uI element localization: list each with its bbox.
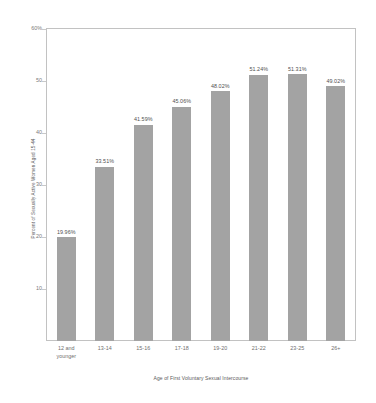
x-axis-category-line: 12 and bbox=[47, 345, 86, 353]
bar-value-label: 51.24% bbox=[249, 66, 268, 72]
x-axis-category-label: 26+ bbox=[317, 345, 356, 353]
bar-group: 51.31% bbox=[278, 29, 317, 341]
bar-value-label: 48.02% bbox=[211, 83, 230, 89]
bars-layer: 19.96%33.51%41.59%45.06%48.02%51.24%51.3… bbox=[47, 29, 355, 341]
x-axis-category-label: 19-20 bbox=[201, 345, 240, 353]
y-axis-tick-label: 20 bbox=[20, 234, 42, 239]
y-axis-tick-label: 30 bbox=[20, 182, 42, 187]
bar-value-label: 41.59% bbox=[134, 116, 153, 122]
x-axis-category-line: 26+ bbox=[317, 345, 356, 353]
bar-group: 51.24% bbox=[240, 29, 279, 341]
x-axis-category-label: 17-18 bbox=[163, 345, 202, 353]
x-axis-category-label: 21-22 bbox=[240, 345, 279, 353]
bar-group: 49.02% bbox=[317, 29, 356, 341]
x-axis-category-label: 15-16 bbox=[124, 345, 163, 353]
x-axis-category-line: 17-18 bbox=[163, 345, 202, 353]
x-axis-category-line: 21-22 bbox=[240, 345, 279, 353]
y-axis-tick-label: 60% bbox=[20, 26, 42, 31]
x-axis-category-line: 23-25 bbox=[278, 345, 317, 353]
bar[interactable] bbox=[95, 167, 114, 341]
bar-group: 48.02% bbox=[201, 29, 240, 341]
y-axis-tick-label: 10 bbox=[20, 286, 42, 291]
x-axis-category-labels: 12 andyounger13-1415-1617-1819-2021-2223… bbox=[47, 345, 355, 371]
y-axis-tick-label: 50 bbox=[20, 78, 42, 83]
x-axis-category-label: 13-14 bbox=[86, 345, 125, 353]
x-axis-category-line: 13-14 bbox=[86, 345, 125, 353]
x-axis-title: Age of First Voluntary Sexual Intercours… bbox=[46, 375, 356, 381]
y-axis-ticks: 60%5040302010 bbox=[12, 0, 42, 403]
x-axis-category-line: 15-16 bbox=[124, 345, 163, 353]
bar[interactable] bbox=[211, 91, 230, 341]
x-axis-category-line: younger bbox=[47, 353, 86, 361]
bar[interactable] bbox=[288, 74, 307, 341]
bar-group: 45.06% bbox=[163, 29, 202, 341]
bar-group: 19.96% bbox=[47, 29, 86, 341]
x-axis-category-line: 19-20 bbox=[201, 345, 240, 353]
bar[interactable] bbox=[57, 237, 76, 341]
bar-group: 33.51% bbox=[86, 29, 125, 341]
bar-chart: Percent of Sexually Active Women Aged 15… bbox=[0, 0, 376, 403]
bar-value-label: 49.02% bbox=[326, 78, 345, 84]
bar[interactable] bbox=[249, 75, 268, 341]
x-axis-category-label: 12 andyounger bbox=[47, 345, 86, 360]
bar[interactable] bbox=[326, 86, 345, 341]
bar-value-label: 45.06% bbox=[172, 98, 191, 104]
bar-value-label: 33.51% bbox=[95, 158, 114, 164]
y-axis-tick-label: 40 bbox=[20, 130, 42, 135]
cropped-header-artifact bbox=[0, 0, 376, 10]
bar[interactable] bbox=[134, 125, 153, 341]
bar-group: 41.59% bbox=[124, 29, 163, 341]
bar-value-label: 51.31% bbox=[288, 66, 307, 72]
bar-value-label: 19.96% bbox=[57, 229, 76, 235]
bar[interactable] bbox=[172, 107, 191, 341]
x-axis-category-label: 23-25 bbox=[278, 345, 317, 353]
